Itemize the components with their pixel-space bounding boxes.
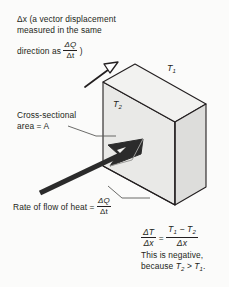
- greater-than-sign: >: [187, 261, 192, 271]
- equals-sign: =: [159, 233, 164, 243]
- t1-subscript: 1: [173, 68, 176, 74]
- equation-note-line2: because T2 > T1.: [141, 261, 205, 274]
- temperature-label-t2: T2: [113, 99, 122, 112]
- equation-note-line1: This is negative,: [141, 250, 203, 261]
- because-word: because: [141, 261, 173, 271]
- delta-t-delta-x-fraction: ΔT Δx: [141, 227, 156, 249]
- rhs-t1-subscript: 1: [173, 229, 176, 235]
- temperature-difference-fraction: T1 − T2 Δx: [166, 224, 198, 249]
- heat-rate-fraction: ΔQ Δt: [97, 196, 111, 216]
- t2-subscript: 2: [119, 104, 122, 110]
- fraction-denominator: Δt: [63, 51, 77, 61]
- minus-sign: −: [179, 224, 184, 234]
- temperature-label-t1: T1: [167, 63, 176, 76]
- heat-rate-numerator: ΔQ: [97, 196, 111, 207]
- displacement-note-line3-prefix: direction as: [17, 46, 61, 56]
- heat-conduction-figure: Δx (a vector displacement measured in th…: [0, 0, 229, 287]
- rhs-denominator: Δx: [166, 238, 198, 249]
- heat-rate-denominator: Δt: [97, 207, 111, 217]
- heat-flow-arrow-shaft: [40, 155, 120, 193]
- slab-right-face: [175, 104, 206, 205]
- lhs-denominator: Δx: [141, 238, 156, 249]
- area-note: Cross-sectional area = A: [17, 110, 76, 121]
- rhs-t2-subscript: 2: [192, 229, 195, 235]
- rhs-numerator: T1 − T2: [166, 224, 198, 238]
- displacement-note-line1: Δx (a vector displacement: [17, 14, 116, 24]
- area-note-line1: Cross-sectional: [17, 110, 76, 120]
- note-t2-subscript: 2: [181, 266, 184, 272]
- gradient-equation: ΔT Δx = T1 − T2 Δx: [141, 224, 198, 249]
- heat-rate-label: Rate of flow of heat =: [13, 202, 95, 212]
- heat-rate-note: Rate of flow of heat = ΔQ Δt: [13, 196, 111, 216]
- displacement-note-line2: measured in the same: [17, 25, 102, 36]
- lhs-numerator: ΔT: [141, 227, 156, 239]
- displacement-note-line3: direction as ΔQ Δt ): [17, 40, 83, 60]
- area-note-line2: area = A: [17, 121, 49, 132]
- displacement-note: Δx (a vector displacement measured in th…: [17, 14, 116, 25]
- displacement-note-line3-suffix: ): [80, 46, 83, 56]
- fraction-numerator: ΔQ: [63, 40, 77, 51]
- delta-q-delta-t-fraction: ΔQ Δt: [63, 40, 77, 60]
- note-period: .: [203, 261, 205, 271]
